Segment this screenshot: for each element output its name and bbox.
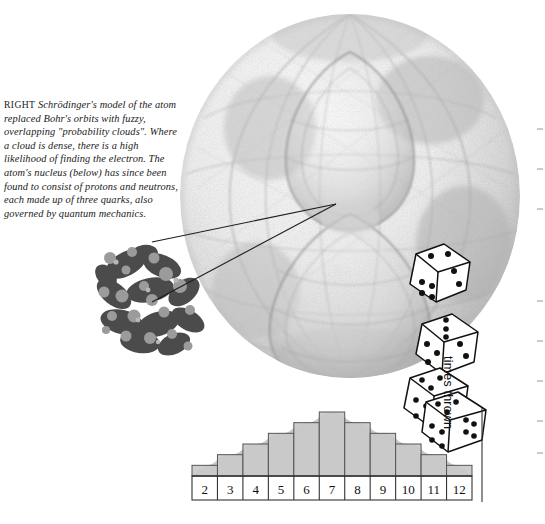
page-edge-artifacts xyxy=(531,0,545,524)
histogram-bar xyxy=(294,423,319,476)
histogram-bar xyxy=(345,423,370,476)
x-tick-label: 6 xyxy=(303,482,310,497)
x-tick-label: 8 xyxy=(354,482,361,497)
histogram-bar xyxy=(217,455,242,476)
illustration-page: 23456789101112 times thrown RIGHT Schröd… xyxy=(0,0,545,524)
x-tick-label: 10 xyxy=(402,482,415,497)
histogram-bar xyxy=(192,465,217,476)
x-tick-label: 4 xyxy=(252,482,259,497)
die-1 xyxy=(410,244,470,302)
x-tick-label: 2 xyxy=(201,482,208,497)
histogram-bar xyxy=(319,412,344,476)
chart-y-axis-label: times thrown xyxy=(439,356,455,496)
histogram-bar xyxy=(268,433,293,476)
atomic-nucleus-cluster xyxy=(92,242,210,358)
caption-lead: RIGHT xyxy=(4,99,35,110)
x-tick-label: 5 xyxy=(278,482,285,497)
histogram-bar xyxy=(370,433,395,476)
histogram-bar xyxy=(396,444,421,476)
caption-body: Schrödinger's model of the atom replaced… xyxy=(4,99,178,219)
figure-caption: RIGHT Schrödinger's model of the atom re… xyxy=(4,98,180,220)
x-tick-label: 7 xyxy=(329,482,336,497)
histogram-bar xyxy=(243,444,268,476)
x-tick-label: 3 xyxy=(227,482,234,497)
x-tick-label: 9 xyxy=(380,482,387,497)
